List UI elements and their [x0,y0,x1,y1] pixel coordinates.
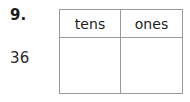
table-header-label-ones: ones [135,16,169,32]
table-cell-tens[interactable] [60,38,121,93]
item-value: 36 [10,48,30,68]
table-row [60,38,182,93]
table-header-label-tens: tens [75,16,106,32]
table-cell-ones[interactable] [121,38,182,93]
table-header-row: tens ones [60,10,182,38]
answer-blank-tens[interactable] [60,38,120,93]
answer-blank-ones[interactable] [121,38,182,93]
table-header-cell-ones: ones [121,10,182,37]
item-number: 9. [10,6,26,25]
prompt-column: 9. 36 [0,0,58,102]
place-value-worksheet-item: 9. 36 tens ones [0,0,190,102]
table-header-cell-tens: tens [60,10,121,37]
place-value-table: tens ones [59,9,183,94]
